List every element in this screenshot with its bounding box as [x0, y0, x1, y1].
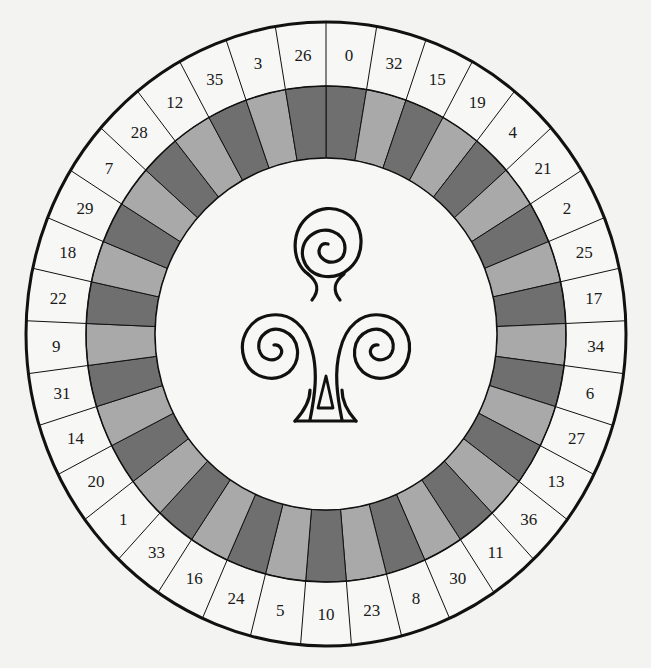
wheel-number: 22: [50, 289, 67, 308]
wheel-number: 33: [148, 543, 165, 562]
wheel-number: 5: [276, 601, 285, 620]
wheel-number: 19: [469, 93, 486, 112]
wheel-number: 16: [186, 569, 203, 588]
shaded-band-ring: [26, 22, 626, 646]
wheel-number: 11: [487, 543, 503, 562]
wheel-number: 24: [228, 589, 246, 608]
center-disc: [155, 158, 497, 510]
wheel-number: 3: [254, 54, 263, 73]
wheel-number: 28: [131, 123, 148, 142]
wheel-number: 14: [67, 429, 85, 448]
wheel-number: 29: [76, 199, 93, 218]
wheel-number: 23: [363, 601, 380, 620]
wheel-number: 6: [586, 384, 595, 403]
wheel-number: 15: [429, 70, 446, 89]
wheel-number: 12: [166, 93, 183, 112]
wheel-number: 30: [449, 569, 466, 588]
wheel-number: 36: [520, 510, 537, 529]
wheel-number: 26: [295, 46, 312, 65]
wheel-number: 1: [119, 510, 128, 529]
wheel-number: 32: [386, 54, 403, 73]
wheel-number: 9: [52, 337, 61, 356]
wheel-number: 7: [105, 159, 114, 178]
wheel-number: 13: [547, 472, 564, 491]
band-segment: [306, 509, 347, 582]
wheel-number: 17: [585, 289, 603, 308]
wheel-number: 18: [59, 243, 76, 262]
wheel-number: 31: [54, 384, 71, 403]
roulette-wheel-diagram: 0321519421225173462713361130823105241633…: [0, 0, 651, 668]
wheel-number: 4: [509, 123, 518, 142]
wheel-number: 34: [587, 337, 605, 356]
wheel-number: 10: [318, 605, 335, 624]
wheel-number: 20: [88, 472, 105, 491]
wheel-number: 21: [535, 159, 552, 178]
wheel-number: 2: [563, 199, 572, 218]
wheel-number: 0: [345, 46, 354, 65]
wheel-number: 25: [576, 243, 593, 262]
wheel-number: 35: [206, 70, 223, 89]
wheel-number: 27: [568, 429, 586, 448]
wheel-number: 8: [412, 589, 421, 608]
